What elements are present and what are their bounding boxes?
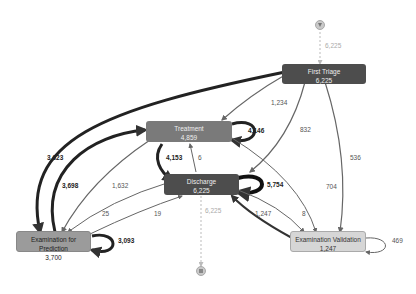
edge-label-triage-treatment: 1,234: [271, 99, 287, 106]
edge-label-prediction-self: 3,093: [118, 237, 134, 244]
edge-label-triage-prediction: 3,623: [47, 154, 63, 161]
edge-label-treatment-self: 4,146: [248, 127, 264, 134]
node-discharge[interactable]: Discharge 6,225: [164, 174, 239, 195]
edge-label-prediction-discharge: 19: [154, 210, 161, 217]
edge-label-treatment-prediction: 1,632: [112, 182, 128, 189]
node-examination-for-prediction[interactable]: Examination for Prediction 3,700: [16, 231, 91, 252]
edge-label-discharge-validation: 8: [302, 210, 306, 217]
edge-label-prediction-treatment: 3,698: [62, 182, 78, 189]
end-edge-label: 6,225: [205, 207, 221, 214]
node-count: 4,859: [146, 133, 232, 142]
node-label: Treatment: [146, 124, 232, 133]
node-count: 1,247: [291, 244, 365, 253]
edge-label-discharge-self: 5,754: [267, 181, 283, 188]
edge-label-discharge-treatment: 6: [198, 154, 202, 161]
edge-label-discharge-prediction: 25: [102, 210, 109, 217]
start-filter-icon[interactable]: [315, 20, 325, 30]
end-stop-icon[interactable]: [196, 266, 206, 276]
node-examination-validation[interactable]: Examination Validation 1,247: [290, 231, 366, 252]
node-first-triage[interactable]: First Triage 6,225: [282, 64, 366, 84]
edge-label-validation-self: 469: [392, 237, 403, 244]
start-edge-label: 6,225: [325, 42, 341, 49]
node-treatment[interactable]: Treatment 4,859: [146, 121, 232, 142]
node-label: First Triage: [282, 67, 366, 76]
node-label: Examination Validation: [291, 235, 365, 244]
node-label: Discharge: [164, 177, 239, 186]
edge-label-treatment-validation: 704: [326, 183, 337, 190]
node-count: 6,225: [282, 76, 366, 85]
edge-label-validation-discharge: 1,247: [255, 210, 271, 217]
node-label: Examination for Prediction: [17, 235, 90, 253]
edge-label-treatment-discharge: 4,153: [166, 154, 182, 161]
edge-label-triage-discharge: 832: [300, 126, 311, 133]
node-count: 3,700: [17, 253, 90, 262]
edge-label-triage-validation: 536: [350, 154, 361, 161]
node-count: 6,225: [164, 186, 239, 195]
